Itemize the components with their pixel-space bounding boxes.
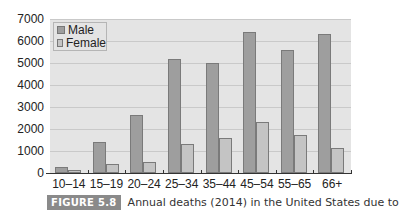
y-tick-label: 2000 (4, 123, 44, 135)
female-swatch-icon (57, 39, 63, 47)
x-tick-mark (125, 170, 126, 174)
gridline (50, 107, 351, 108)
male-swatch-icon (57, 26, 65, 34)
bar-male (281, 50, 294, 173)
bar-female (331, 148, 344, 173)
bar-male (318, 34, 331, 173)
bar-female (256, 122, 269, 173)
bar-male (243, 32, 256, 173)
x-tick-label: 66+ (312, 177, 352, 191)
x-tick-mark (313, 170, 314, 174)
x-axis-line (46, 173, 351, 174)
y-tick-label: 7000 (4, 13, 44, 25)
y-tick-label: 1000 (4, 145, 44, 157)
figure-caption: FIGURE 5.8 Annual deaths (2014) in the U… (47, 195, 399, 210)
figure-tag: FIGURE 5.8 (47, 195, 121, 210)
x-tick-mark (238, 170, 239, 174)
legend-label-female: Female (66, 37, 106, 49)
bar-female (143, 162, 156, 173)
bar-female (181, 144, 194, 173)
x-tick-label: 35–44 (199, 177, 239, 191)
x-tick-mark (276, 170, 277, 174)
y-tick-label: 4000 (4, 79, 44, 91)
gridline (50, 129, 351, 130)
x-tick-mark (351, 170, 352, 174)
y-tick-label: 3000 (4, 101, 44, 113)
bar-male (93, 142, 106, 173)
bar-female (294, 135, 307, 174)
y-tick-label: 0 (4, 167, 44, 179)
gridline (50, 19, 351, 20)
legend-label-male: Male (68, 24, 94, 36)
bar-male (130, 115, 143, 173)
x-tick-label: 25–34 (162, 177, 202, 191)
bar-female (68, 170, 81, 173)
legend-item-female: Female (57, 37, 106, 49)
gridline (50, 63, 351, 64)
legend: Male Female (53, 22, 107, 51)
bar-male (206, 63, 219, 173)
x-tick-label: 15–19 (86, 177, 126, 191)
bar-female (106, 164, 119, 173)
x-tick-label: 55–65 (275, 177, 315, 191)
y-tick-label: 6000 (4, 35, 44, 47)
y-tick-label: 5000 (4, 57, 44, 69)
bar-male (168, 59, 181, 173)
caption-text: Annual deaths (2014) in the United State… (128, 196, 399, 209)
x-tick-mark (163, 170, 164, 174)
x-tick-label: 10–14 (49, 177, 89, 191)
gridline (50, 85, 351, 86)
bar-female (219, 138, 232, 173)
x-tick-mark (201, 170, 202, 174)
x-tick-label: 45–54 (237, 177, 277, 191)
bar-male (55, 167, 68, 173)
x-tick-label: 20–24 (124, 177, 164, 191)
x-tick-mark (88, 170, 89, 174)
legend-item-male: Male (57, 24, 106, 36)
